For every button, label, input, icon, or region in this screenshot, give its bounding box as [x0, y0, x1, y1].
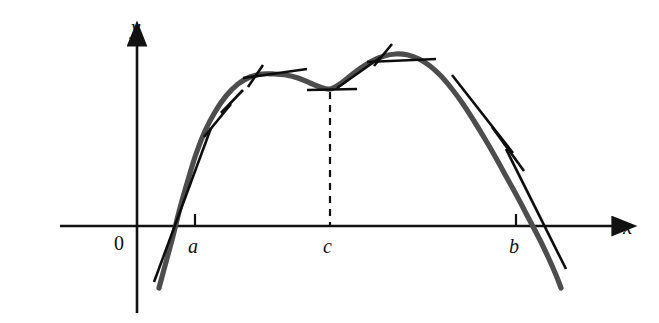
tangent-min-at-c [307, 89, 357, 90]
tangent-lines-group [154, 44, 566, 282]
y-axis-label: y [131, 17, 140, 38]
math-figure: y x 0 a c b [0, 0, 659, 323]
tick-label-c: c [323, 236, 332, 256]
origin-label: 0 [114, 233, 124, 253]
tangent-left-steep [154, 128, 211, 282]
axis-ticks-group [195, 214, 516, 226]
figure-canvas [0, 0, 659, 323]
x-axis-label: x [623, 217, 632, 238]
function-curve-group [159, 54, 561, 288]
tick-label-b: b [509, 236, 519, 256]
function-curve [159, 54, 561, 288]
tick-label-a: a [188, 236, 198, 256]
